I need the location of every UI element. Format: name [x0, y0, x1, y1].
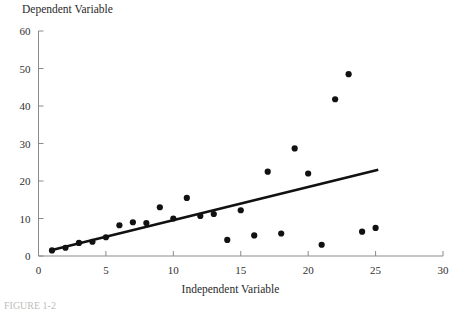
y-tick-label: 60	[20, 25, 32, 37]
x-tick-label: 25	[370, 264, 382, 276]
data-point	[251, 232, 257, 238]
regression-line	[52, 170, 378, 250]
data-point	[372, 225, 378, 231]
y-tick-label: 10	[20, 213, 32, 225]
y-tick-label: 0	[25, 250, 31, 262]
data-point	[332, 96, 338, 102]
x-axis-title: Independent Variable	[0, 283, 461, 295]
x-tick-label: 5	[103, 264, 109, 276]
y-tick-label: 50	[20, 63, 32, 75]
data-point	[319, 242, 325, 248]
y-axis: 0102030405060	[20, 25, 44, 262]
data-point	[265, 169, 271, 175]
x-tick-label: 0	[36, 264, 42, 276]
data-point	[157, 204, 163, 210]
x-tick-label: 30	[438, 264, 450, 276]
y-tick-label: 40	[20, 100, 32, 112]
x-tick-label: 15	[235, 264, 247, 276]
data-point	[278, 230, 284, 236]
data-point	[103, 234, 109, 240]
data-point	[116, 222, 122, 228]
trend-line	[52, 170, 378, 250]
data-point	[197, 213, 203, 219]
scatter-plot-figure: Dependent Variable 0102030405060 0510152…	[0, 0, 461, 311]
data-point	[238, 207, 244, 213]
x-tick-label: 10	[168, 264, 180, 276]
data-point	[49, 247, 55, 253]
data-point	[143, 220, 149, 226]
plot-canvas: 0102030405060 051015202530	[0, 0, 461, 311]
y-tick-label: 30	[20, 138, 32, 150]
data-point	[224, 237, 230, 243]
data-point	[359, 229, 365, 235]
figure-caption: FIGURE 1-2	[4, 300, 56, 311]
x-axis: 051015202530	[36, 251, 449, 276]
data-point	[170, 215, 176, 221]
data-point	[292, 145, 298, 151]
x-tick-label: 20	[303, 264, 315, 276]
data-point	[211, 211, 217, 217]
data-point	[89, 239, 95, 245]
data-point	[305, 170, 311, 176]
data-point	[346, 71, 352, 77]
y-tick-label: 20	[20, 175, 32, 187]
data-point	[130, 219, 136, 225]
data-point	[184, 195, 190, 201]
data-point	[62, 245, 68, 251]
data-points	[49, 71, 379, 253]
data-point	[76, 240, 82, 246]
